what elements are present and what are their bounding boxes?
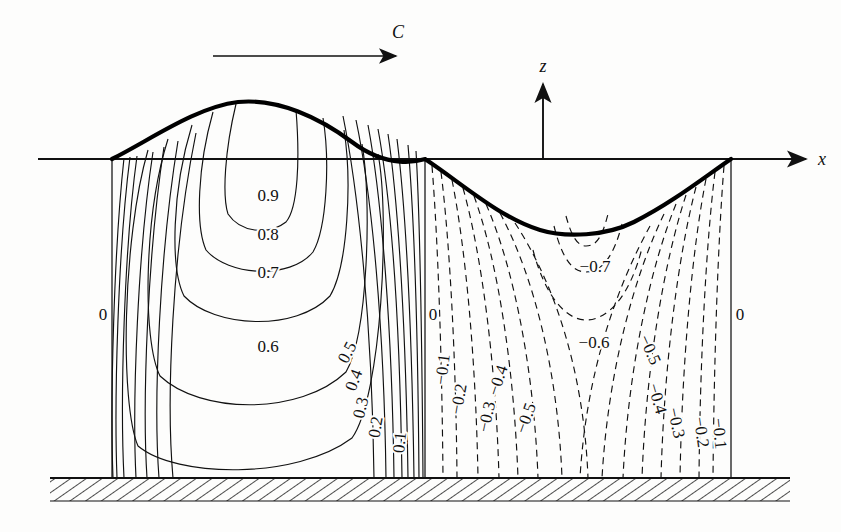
- contour-label-positive-1: 0.8: [257, 225, 278, 244]
- sea-bed-hatching: [50, 479, 790, 501]
- contour-label-negative-11: −0.1: [708, 417, 730, 450]
- contour-label-positive-8: 0.1: [389, 431, 410, 454]
- contour-label-positive-2: 0.7: [257, 263, 279, 282]
- contour-label-negative-2: −0.1: [431, 353, 454, 386]
- contour-label-zero-2: 0: [736, 305, 745, 324]
- z-axis-label: z: [538, 56, 546, 76]
- wave-contour-figure: C x z: [0, 0, 841, 532]
- contour-label-zero-1: 0: [429, 305, 438, 324]
- contour-label-positive-3: 0.6: [257, 337, 278, 356]
- contour-label-positive-0: 0.9: [257, 186, 278, 205]
- sea-bed: [50, 478, 790, 501]
- contour-label-positive-7: 0.2: [364, 415, 386, 439]
- contour-label-zero-0: 0: [99, 305, 108, 324]
- contour-label-negative-0: −0.7: [580, 257, 611, 276]
- contour-label-negative-1: −0.6: [579, 333, 610, 352]
- celerity-label: C: [392, 22, 405, 42]
- x-axis-label: x: [817, 149, 826, 169]
